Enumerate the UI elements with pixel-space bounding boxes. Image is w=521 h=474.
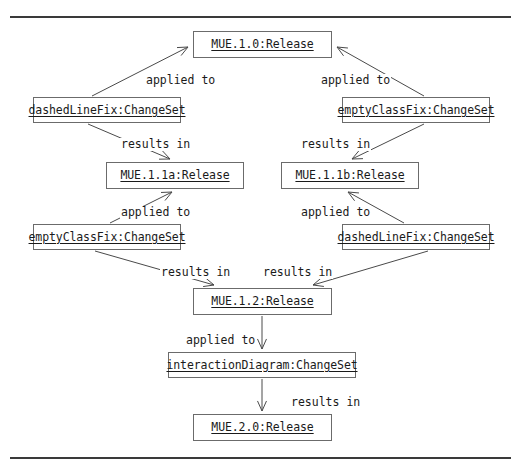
edge-line-e2 [337, 47, 424, 96]
node-mue11a[interactable]: MUE.1.1a:Release [106, 162, 244, 189]
node-label: emptyClassFix:ChangeSet [338, 104, 495, 117]
edge-label-e3: results in [120, 138, 191, 151]
edge-label-e1: applied to [145, 74, 216, 87]
node-cs_ecf1[interactable]: emptyClassFix:ChangeSet [342, 97, 490, 123]
node-label: dashedLineFix:ChangeSet [338, 231, 495, 244]
node-cs_ecf2[interactable]: emptyClassFix:ChangeSet [33, 224, 181, 250]
edge-label-e6: applied to [300, 206, 371, 219]
edge-label-e9: applied to [185, 334, 256, 347]
edge-line-e1 [92, 47, 188, 96]
node-label: MUE.1.1b:Release [295, 169, 404, 182]
edge-label-e2: applied to [320, 74, 391, 87]
node-label: MUE.2.0:Release [211, 421, 313, 434]
node-mue10[interactable]: MUE.1.0:Release [193, 31, 332, 58]
edge-label-e4: results in [300, 138, 371, 151]
node-cs_int[interactable]: interactionDiagram:ChangeSet [168, 352, 356, 378]
edge-label-e5: applied to [120, 206, 191, 219]
node-mue11b[interactable]: MUE.1.1b:Release [281, 162, 419, 189]
node-label: emptyClassFix:ChangeSet [29, 231, 186, 244]
node-label: MUE.1.2:Release [211, 295, 313, 308]
edge-label-e8: results in [262, 266, 333, 279]
node-mue12[interactable]: MUE.1.2:Release [193, 288, 332, 315]
node-cs_dlf1[interactable]: dashedLineFix:ChangeSet [33, 97, 181, 123]
node-mue20[interactable]: MUE.2.0:Release [193, 414, 332, 441]
edge-label-e10: results in [290, 396, 361, 409]
node-label: dashedLineFix:ChangeSet [29, 104, 186, 117]
diagram-canvas: MUE.1.0:ReleasedashedLineFix:ChangeSetem… [0, 0, 521, 474]
node-label: interactionDiagram:ChangeSet [166, 359, 357, 372]
node-cs_dlf2[interactable]: dashedLineFix:ChangeSet [342, 224, 490, 250]
node-label: MUE.1.1a:Release [120, 169, 229, 182]
edge-label-e7: results in [160, 266, 231, 279]
node-label: MUE.1.0:Release [211, 38, 313, 51]
